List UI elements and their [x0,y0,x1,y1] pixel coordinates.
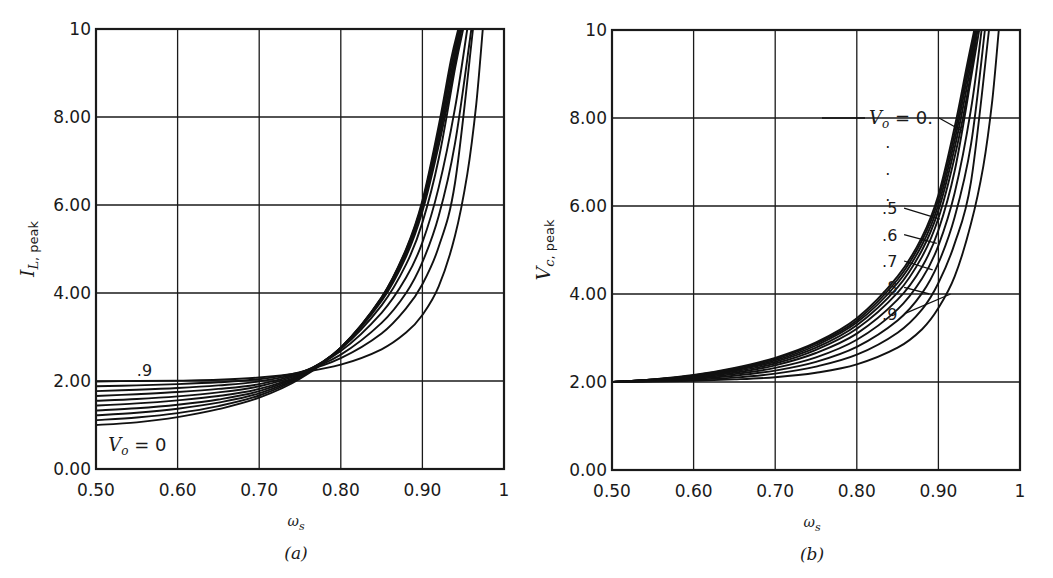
x-axis-label: ωs [803,514,820,534]
chart-b-svg: 0.500.600.700.800.9010.002.004.006.008.0… [516,0,1053,578]
x-tick-label: 0.90 [919,481,957,501]
x-tick-label: 0.60 [675,481,713,501]
curve-label: Vo = 0. [869,107,933,131]
series-curve [96,29,467,396]
x-tick-label: 1 [1015,481,1026,501]
y-tick-label: 4.00 [569,284,607,304]
series-curve [96,29,463,401]
curve-label: .5 [882,199,897,218]
gridlines [612,30,1020,470]
y-tick-label: 4.00 [53,283,91,303]
tick-labels: 0.500.600.700.800.9010.002.004.006.008.0… [569,20,1025,501]
curve-label: .9 [882,305,897,324]
x-tick-label: 0.70 [240,480,278,500]
x-axis-label: ωs [287,513,304,533]
y-axis-label: Vc, peak [532,219,557,280]
series-curve [96,29,460,415]
curve-label: .6 [882,226,897,245]
annotations: Vo = 0.....5.6.7.8.9 [822,107,963,324]
chart-panel-b: 0.500.600.700.800.9010.002.004.006.008.0… [516,0,1053,578]
curve-group [96,29,483,425]
curve-label: Vo = 0 [108,434,166,458]
curve-label: .9 [137,361,152,380]
y-tick-label: 10 [585,20,607,40]
y-tick-label: 2.00 [53,371,91,391]
y-tick-label: 8.00 [53,107,91,127]
x-tick-label: 0.50 [593,481,631,501]
tick-labels: 0.500.600.700.800.9010.002.004.006.008.0… [53,19,509,500]
y-axis-label: IL, peak [16,220,41,278]
x-tick-label: 0.90 [403,480,441,500]
y-tick-label: 0.00 [53,459,91,479]
curve-label: . [885,133,890,152]
y-tick-label: 6.00 [53,195,91,215]
curve-label: .7 [882,252,897,271]
x-tick-label: 0.80 [322,480,360,500]
curve-label: . [885,160,890,179]
x-tick-label: 1 [499,480,510,500]
series-curve [96,29,473,386]
chart-a-svg: 0.500.600.700.800.9010.002.004.006.008.0… [0,0,526,578]
leader-line [904,294,951,314]
curve-label: .8 [882,278,897,297]
x-tick-label: 0.70 [756,481,794,501]
plot-frame [612,30,1020,470]
x-tick-label: 0.80 [838,481,876,501]
series-curve [96,29,471,391]
figure-caption: (b) [800,544,824,564]
figure-caption: (a) [284,543,307,563]
series-curve [96,29,462,406]
y-tick-label: 10 [69,19,91,39]
chart-panel-a: 0.500.600.700.800.9010.002.004.006.008.0… [0,0,526,578]
x-tick-label: 0.50 [77,480,115,500]
series-curve [96,29,461,410]
y-tick-label: 0.00 [569,460,607,480]
y-tick-label: 6.00 [569,196,607,216]
y-tick-label: 2.00 [569,372,607,392]
y-tick-label: 8.00 [569,108,607,128]
x-tick-label: 0.60 [159,480,197,500]
